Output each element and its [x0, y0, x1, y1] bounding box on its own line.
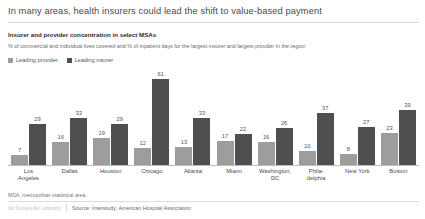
bar-value-label: 61	[152, 71, 169, 78]
bar-group: 1626	[255, 70, 296, 165]
x-axis-labels: LosAngelesDallasHoustonChicagoAtlantaMia…	[8, 168, 419, 182]
bar-value-label: 26	[276, 120, 293, 127]
bar	[258, 142, 275, 165]
bar-column: 23	[381, 70, 398, 165]
bar-column: 29	[111, 70, 128, 165]
bar-group: 1633	[49, 70, 90, 165]
bar-value-label: 19	[93, 130, 110, 137]
plot-area: 72916331929126113331722162610378272339	[8, 70, 419, 165]
bar-column: 13	[175, 70, 192, 165]
bar	[217, 141, 234, 165]
bar-groups: 72916331929126113331722162610378272339	[8, 70, 419, 165]
source-divider	[66, 204, 67, 211]
bar-value-label: 39	[399, 102, 416, 109]
x-axis-label: Washington,DC	[255, 168, 296, 182]
bar-column: 16	[52, 70, 69, 165]
bar	[381, 133, 398, 165]
bar-value-label: 29	[29, 116, 46, 123]
bar-column: 26	[276, 70, 293, 165]
bar-value-label: 13	[175, 139, 192, 146]
bar	[52, 142, 69, 165]
x-axis-label: Miami	[213, 168, 254, 182]
x-axis-label: Phila-delphia	[296, 168, 337, 182]
source-label: Source: Interstudy; American Hospital As…	[72, 205, 191, 211]
bar-group: 1929	[90, 70, 131, 165]
bar	[70, 118, 87, 165]
bar	[399, 110, 416, 165]
x-axis-label: Atlanta	[172, 168, 213, 182]
bar-value-label: 27	[358, 119, 375, 126]
bar	[152, 79, 169, 165]
bar-column: 33	[193, 70, 210, 165]
page-title: In many areas, health insurers could lea…	[8, 6, 322, 16]
bar-column: 12	[134, 70, 151, 165]
bar-value-label: 23	[381, 125, 398, 132]
bar	[340, 154, 357, 165]
legend-swatch-provider-icon	[8, 58, 13, 63]
bar-group: 1722	[213, 70, 254, 165]
x-axis-label: Chicago	[131, 168, 172, 182]
bar-value-label: 17	[217, 133, 234, 140]
bar-group: 2339	[378, 70, 419, 165]
legend-label-insurer: Leading insurer	[75, 57, 114, 63]
x-axis-label: LosAngeles	[8, 168, 49, 182]
legend-item-provider: Leading provider	[8, 57, 58, 63]
bar-column: 29	[29, 70, 46, 165]
legend-item-insurer: Leading insurer	[67, 57, 114, 63]
bar-value-label: 16	[52, 134, 69, 141]
bar-column: 22	[235, 70, 252, 165]
bar-column: 16	[258, 70, 275, 165]
bar-group: 729	[8, 70, 49, 165]
bar-column: 17	[217, 70, 234, 165]
axis-baseline	[8, 165, 419, 166]
bar	[193, 118, 210, 165]
chart-subtitle: Insurer and provider concentration in se…	[8, 31, 156, 38]
bar	[111, 124, 128, 165]
bar-group: 1037	[296, 70, 337, 165]
bar-value-label: 37	[317, 105, 334, 112]
bar-column: 10	[299, 70, 316, 165]
chart-legend: Leading provider Leading insurer	[8, 57, 113, 63]
bar-column: 37	[317, 70, 334, 165]
x-axis-label: Dallas	[49, 168, 90, 182]
bar	[358, 127, 375, 165]
bar-value-label: 16	[258, 134, 275, 141]
chart-footnote: MSA, metropolitan statistical area.	[8, 192, 87, 198]
bar-value-label: 33	[193, 110, 210, 117]
bar-column: 8	[340, 70, 357, 165]
title-divider	[8, 22, 419, 23]
chart-page: In many areas, health insurers could lea…	[0, 0, 425, 219]
chart-description: % of commercial and individual lives cov…	[8, 43, 306, 49]
source-row: McKinsey&Company Source: Interstudy; Ame…	[8, 204, 191, 211]
mckinsey-logo: McKinsey&Company	[8, 205, 61, 211]
footer-divider	[8, 201, 419, 202]
legend-label-provider: Leading provider	[16, 57, 58, 63]
bar-column: 33	[70, 70, 87, 165]
bar-value-label: 29	[111, 116, 128, 123]
bar-value-label: 12	[134, 140, 151, 147]
bar	[134, 148, 151, 165]
bar-column: 39	[399, 70, 416, 165]
bar	[235, 134, 252, 165]
bar	[276, 128, 293, 165]
legend-swatch-insurer-icon	[67, 58, 72, 63]
bar	[317, 113, 334, 165]
x-axis-label: Boston	[378, 168, 419, 182]
bar-column: 19	[93, 70, 110, 165]
bar	[29, 124, 46, 165]
bar-value-label: 10	[299, 143, 316, 150]
bar-column: 7	[11, 70, 28, 165]
bar-value-label: 33	[70, 110, 87, 117]
bar-group: 827	[337, 70, 378, 165]
bar-group: 1333	[172, 70, 213, 165]
bar-value-label: 7	[11, 147, 28, 154]
bar-value-label: 8	[340, 146, 357, 153]
bar	[175, 147, 192, 165]
bar-value-label: 22	[235, 126, 252, 133]
bar	[11, 155, 28, 165]
bar-group: 1261	[131, 70, 172, 165]
x-axis-label: New York	[337, 168, 378, 182]
bar	[299, 151, 316, 165]
bar-column: 27	[358, 70, 375, 165]
x-axis-label: Houston	[90, 168, 131, 182]
